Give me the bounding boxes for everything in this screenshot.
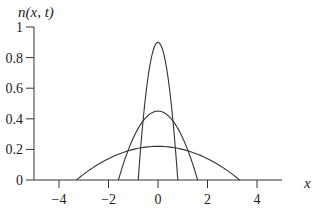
x-tick-label: −2 xyxy=(101,192,116,207)
chart: 00.20.40.60.81−4−2024n(x, t)x xyxy=(0,0,317,215)
x-tick-label: 2 xyxy=(204,192,211,207)
x-tick-label: −4 xyxy=(52,192,67,207)
curve-wide-profile xyxy=(76,146,239,180)
y-tick-label: 0.2 xyxy=(6,142,24,157)
curve-medium-profile xyxy=(118,111,197,180)
y-tick-label: 0.4 xyxy=(6,112,24,127)
y-tick-label: 0.8 xyxy=(6,51,24,66)
y-tick-label: 0.6 xyxy=(6,81,24,96)
x-tick-label: 4 xyxy=(254,192,261,207)
y-axis-title: n(x, t) xyxy=(18,4,54,21)
y-tick-label: 1 xyxy=(16,20,23,35)
x-axis-title: x xyxy=(303,175,311,191)
x-tick-label: 0 xyxy=(155,192,162,207)
y-tick-label: 0 xyxy=(16,173,23,188)
